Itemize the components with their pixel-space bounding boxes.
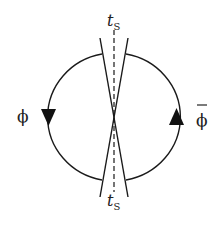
right-propagator-arc [126, 54, 180, 180]
left-field-label: ϕ [17, 106, 29, 126]
arrow-up-icon [169, 108, 184, 125]
arrow-down-icon [41, 109, 56, 126]
feynman-diagram: tS tS ϕ ϕ [0, 0, 222, 227]
right-field-label: ϕ [196, 110, 208, 130]
top-time-label: tS [107, 11, 120, 32]
left-propagator-arc [48, 54, 102, 180]
bottom-time-label: tS [107, 191, 120, 212]
